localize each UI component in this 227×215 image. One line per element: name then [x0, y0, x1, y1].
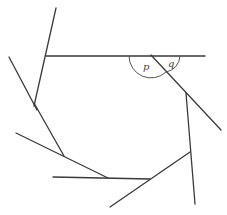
extension-line-left	[9, 57, 37, 110]
polygon-diagram: p q	[0, 0, 227, 215]
bottom-side-line	[53, 177, 150, 179]
angle-q-label: q	[168, 58, 174, 69]
side-line-left	[34, 103, 64, 156]
side-line-lower-left	[16, 133, 108, 178]
side-line-upper-left	[34, 8, 56, 106]
angle-p-label: p	[143, 61, 150, 72]
vertical-side-line-right	[186, 93, 195, 204]
side-line-lower-right	[110, 152, 190, 207]
